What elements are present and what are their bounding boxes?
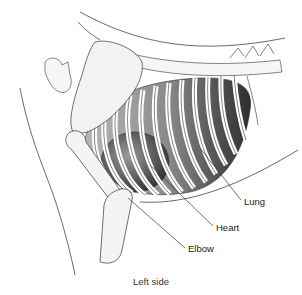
label-lung: Lung [244,196,265,207]
chest-outline [20,88,75,275]
forearm [100,189,132,263]
label-elbow: Elbow [188,243,214,254]
back-outline [80,12,285,46]
elbow-leader-line [128,198,185,248]
cervical-vertebrae [45,58,71,93]
thorax-illustration [0,0,302,295]
neck-outline [78,22,100,40]
label-heart: Heart [216,222,239,233]
figure-caption: Left side [0,276,302,287]
